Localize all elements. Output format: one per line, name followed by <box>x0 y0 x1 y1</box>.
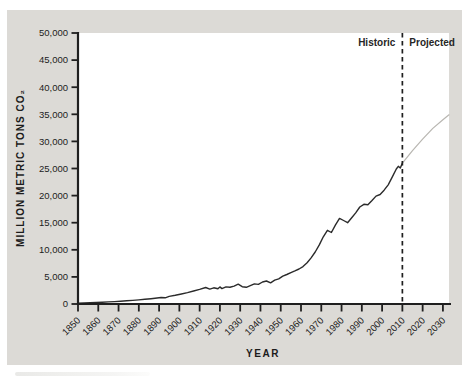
projected-label: Projected <box>409 37 455 48</box>
x-tick-label: 1860 <box>80 315 103 338</box>
x-tick-label: 1850 <box>60 315 83 338</box>
y-tick-label: 15,000 <box>39 217 68 228</box>
x-tick-label: 1950 <box>262 315 285 338</box>
x-tick-label: 1890 <box>141 315 164 338</box>
y-tick-label: 50,000 <box>39 27 68 38</box>
x-tick-label: 2010 <box>384 315 407 338</box>
x-tick-label: 1990 <box>344 315 367 338</box>
x-tick-label: 1970 <box>303 315 326 338</box>
y-tick-label: 30,000 <box>39 136 68 147</box>
x-tick-label: 1910 <box>181 315 204 338</box>
historic-label: Historic <box>358 37 396 48</box>
x-tick-label: 1880 <box>121 315 144 338</box>
x-tick-label: 1930 <box>222 315 245 338</box>
y-tick-label: 5,000 <box>44 271 68 282</box>
cropped-caption-artifact <box>15 372 150 376</box>
plot-area <box>78 33 449 304</box>
y-axis-title: MILLION METRIC TONS CO₂ <box>15 89 26 247</box>
co2-emissions-figure: 05,00010,00015,00020,00025,00030,00035,0… <box>7 10 462 365</box>
x-tick-label: 2020 <box>404 315 427 338</box>
y-tick-label: 35,000 <box>39 109 68 120</box>
y-tick-label: 0 <box>63 298 68 309</box>
x-axis-title: YEAR <box>246 348 280 359</box>
x-tick-label: 1960 <box>283 315 306 338</box>
x-tick-label: 1900 <box>161 315 184 338</box>
x-tick-label: 2030 <box>425 315 448 338</box>
page: 05,00010,00015,00020,00025,00030,00035,0… <box>0 0 471 379</box>
y-tick-label: 45,000 <box>39 54 68 65</box>
x-tick-label: 1920 <box>202 315 225 338</box>
x-tick-label: 2000 <box>364 315 387 338</box>
y-tick-label: 20,000 <box>39 190 68 201</box>
y-tick-label: 10,000 <box>39 244 68 255</box>
y-axis-ticks: 05,00010,00015,00020,00025,00030,00035,0… <box>39 27 78 309</box>
x-axis-ticks: 1850186018701880189019001910192019301940… <box>60 304 448 337</box>
y-tick-label: 40,000 <box>39 82 68 93</box>
x-tick-label: 1940 <box>242 315 265 338</box>
x-tick-label: 1980 <box>323 315 346 338</box>
x-tick-label: 1870 <box>100 315 123 338</box>
y-tick-label: 25,000 <box>39 163 68 174</box>
co2-emissions-line-chart: 05,00010,00015,00020,00025,00030,00035,0… <box>7 10 462 365</box>
